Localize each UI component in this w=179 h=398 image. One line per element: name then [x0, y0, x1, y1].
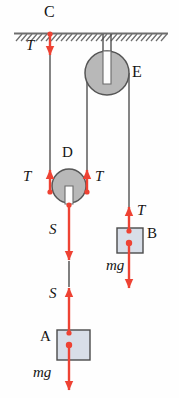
ceiling-support — [14, 34, 168, 42]
label-tension-d-left: T — [23, 169, 31, 184]
label-tension-d-right: T — [95, 169, 103, 184]
label-block-A: A — [40, 329, 51, 344]
label-pulley-D: D — [62, 145, 73, 160]
label-point-C: C — [44, 4, 55, 20]
label-tension-block-b: T — [137, 203, 145, 218]
label-pulley-E: E — [132, 64, 142, 80]
label-s-pulley-d: S — [49, 222, 57, 237]
label-block-B: B — [147, 226, 157, 241]
ceiling-hatching — [16, 34, 167, 41]
block-A — [57, 330, 90, 360]
label-s-block-a: S — [49, 286, 57, 301]
pulley-system-diagram: C E D B A T T T T S S mg mg — [0, 0, 179, 398]
pulley-E — [85, 51, 129, 95]
label-weight-block-b: mg — [106, 258, 124, 273]
pulley-D — [52, 169, 86, 204]
label-weight-block-a: mg — [33, 365, 51, 380]
diagram-canvas — [0, 0, 179, 398]
label-tension-ceiling: T — [26, 38, 34, 53]
